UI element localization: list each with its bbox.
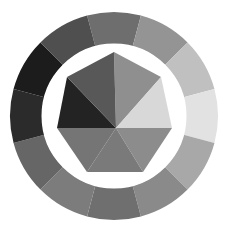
color-wheel-figure bbox=[0, 0, 228, 234]
ring-segment-seg-01 bbox=[87, 12, 141, 46]
ring-segment-seg-10 bbox=[10, 89, 44, 143]
figure-root bbox=[0, 0, 228, 234]
ring-segment-seg-07 bbox=[87, 186, 141, 220]
ring-segment-seg-04 bbox=[184, 89, 218, 143]
